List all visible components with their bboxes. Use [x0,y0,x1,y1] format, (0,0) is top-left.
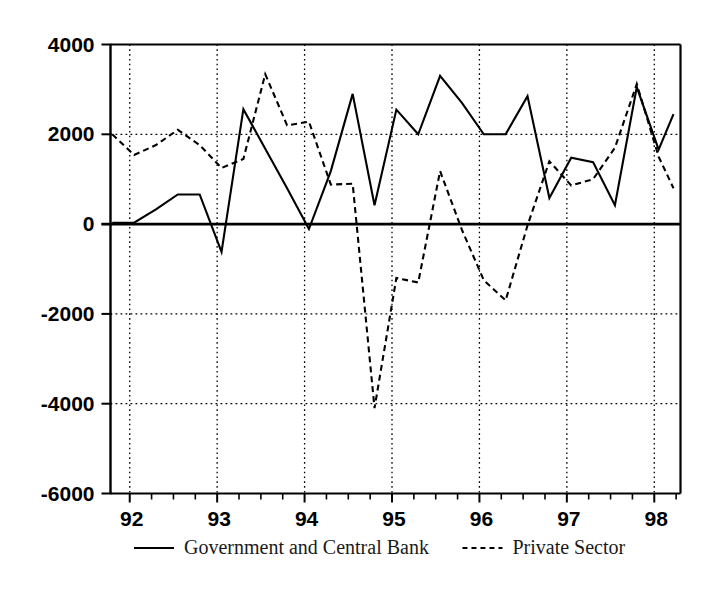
x-axis-labels: 92939495969798 [120,507,668,530]
y-axis-labels: 400020000-2000-4000-6000 [41,33,95,505]
series-layer [112,74,673,408]
x-axis-tick-label: 95 [382,507,406,530]
x-axis-tick-label: 98 [645,507,669,530]
x-axis-tick-label: 96 [470,507,493,530]
y-axis-tick-label: 0 [83,212,95,235]
chart-legend: Government and Central BankPrivate Secto… [134,536,626,558]
chart-svg: 400020000-2000-4000-6000 92939495969798 … [0,0,719,599]
y-axis-tick-label: -4000 [41,392,95,415]
chart-container: 400020000-2000-4000-6000 92939495969798 … [0,0,719,599]
series-line-government-and-central-bank [112,76,673,252]
legend-label-private-sector: Private Sector [512,536,625,558]
vertical-gridlines [130,45,655,494]
legend-label-government-and-central-bank: Government and Central Bank [184,536,429,558]
x-axis-tick-label: 92 [120,507,143,530]
y-axis-tick-label: 4000 [48,33,95,56]
x-axis-tick-label: 93 [207,507,230,530]
y-axis-tick-label: -2000 [41,302,95,325]
x-axis-tick-label: 97 [557,507,580,530]
y-axis-tick-label: -6000 [41,482,95,505]
x-axis-tick-label: 94 [295,507,319,530]
y-axis-tick-label: 2000 [48,122,95,145]
axis-ticks [102,45,677,503]
